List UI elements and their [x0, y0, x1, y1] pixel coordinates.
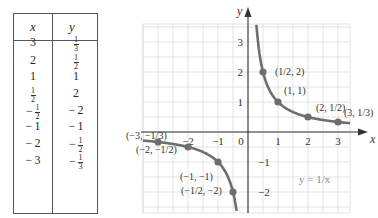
data-point	[304, 113, 311, 120]
reciprocal-function-graph: xy−2−10123−2−1123 y = 1/x (1/2, 2)(1, 1)…	[0, 0, 378, 218]
x-tick-label: 3	[335, 135, 341, 147]
x-tick-label: 0	[238, 135, 244, 147]
y-tick-label: −2	[258, 186, 270, 198]
data-point	[184, 143, 191, 150]
curve-y-equals-1-over-x: y = 1/x	[143, 25, 350, 211]
point-label: (−3, −1/3)	[126, 130, 167, 142]
data-point	[334, 118, 341, 125]
y-axis-label: y	[236, 4, 243, 18]
x-axis-label: x	[369, 132, 376, 146]
data-point	[229, 188, 236, 195]
point-label: (2, 1/2)	[316, 102, 345, 114]
point-label: (−1/2, −2)	[181, 185, 222, 197]
point-label: (1/2, 2)	[275, 66, 304, 78]
x-tick-label: −1	[212, 135, 224, 147]
function-label: y = 1/x	[299, 173, 331, 185]
x-axis-arrow-icon	[358, 129, 368, 136]
y-tick-label: −1	[258, 156, 270, 168]
point-label: (−1, −1)	[180, 171, 213, 183]
data-point	[259, 68, 266, 75]
point-label: (1, 1)	[284, 85, 306, 97]
y-tick-label: 3	[238, 36, 244, 48]
data-point	[274, 98, 281, 105]
data-point	[214, 158, 221, 165]
x-tick-label: 1	[275, 135, 281, 147]
x-tick-label: 2	[305, 135, 311, 147]
y-tick-label: 2	[238, 66, 244, 78]
point-label: (3, 1/3)	[344, 107, 373, 119]
y-axis-arrow-icon	[245, 7, 252, 17]
y-tick-label: 1	[238, 96, 244, 108]
point-label: (−2, −1/2)	[136, 144, 177, 156]
